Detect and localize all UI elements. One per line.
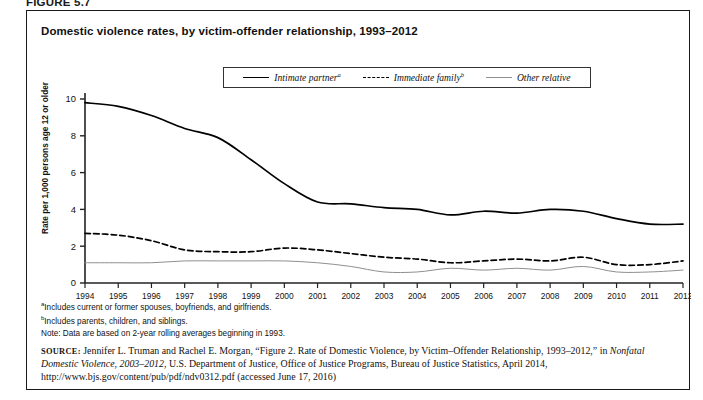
footnote-b: bIncludes parents, children, and sibling…: [41, 313, 285, 327]
x-tick-label: 2004: [408, 291, 427, 301]
y-tick-label: 0: [71, 277, 76, 288]
x-tick-label: 2002: [341, 291, 360, 301]
series-line-other-relative: [85, 261, 683, 273]
y-tick-label: 6: [71, 167, 76, 178]
y-tick-label: 8: [71, 130, 76, 141]
y-tick-label: 10: [66, 93, 76, 104]
y-tick-label: 4: [71, 204, 76, 215]
footnote-a: aIncludes current or former spouses, boy…: [41, 299, 285, 313]
x-tick-label: 2012: [674, 291, 691, 301]
y-tick-label: 2: [71, 241, 76, 252]
line-chart-svg: 0246810199419951996199719981999200020012…: [27, 11, 691, 311]
source-text-part1: Jennifer L. Truman and Rachel E. Morgan,…: [81, 345, 610, 356]
figure-label: FIGURE 5.7: [26, 0, 91, 6]
x-tick-label: 2010: [607, 291, 626, 301]
x-tick-label: 2001: [308, 291, 327, 301]
series-line-intimate-partner: [85, 103, 683, 225]
x-tick-label: 2003: [375, 291, 394, 301]
x-tick-label: 2007: [508, 291, 527, 301]
x-tick-label: 2005: [441, 291, 460, 301]
source-citation: SOURCE: Jennifer L. Truman and Rachel E.…: [41, 345, 681, 383]
source-prefix: SOURCE:: [41, 347, 81, 356]
footnote-note: Note: Data are based on 2-year rolling a…: [41, 328, 285, 340]
x-tick-label: 2006: [474, 291, 493, 301]
footnotes: aIncludes current or former spouses, boy…: [41, 299, 285, 339]
x-tick-label: 2008: [541, 291, 560, 301]
series-line-immediate-family: [85, 233, 683, 265]
x-tick-label: 2011: [641, 291, 659, 301]
figure-panel: Domestic violence rates, by victim-offen…: [26, 10, 690, 390]
x-tick-label: 2009: [574, 291, 593, 301]
